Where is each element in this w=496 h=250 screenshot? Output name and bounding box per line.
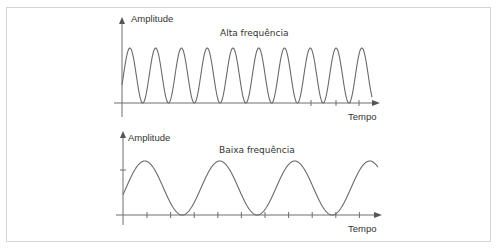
low-y-axis-arrow-icon xyxy=(120,131,126,138)
low-x-axis-label: Tempo xyxy=(348,223,377,234)
high-frequency-panel: Amplitude Alta frequência Tempo xyxy=(114,13,380,122)
low-panel-title: Baixa frequência xyxy=(219,145,295,155)
high-frequency-wave xyxy=(122,48,372,103)
frequency-comparison-diagram: Amplitude Alta frequência Tempo Amplitud… xyxy=(0,0,496,250)
high-x-axis-arrow-icon xyxy=(372,100,380,106)
low-x-axis-arrow-icon xyxy=(374,212,382,218)
low-frequency-panel: Amplitude Baixa frequência Tempo xyxy=(116,131,382,234)
high-panel-title: Alta frequência xyxy=(220,28,288,38)
low-y-axis-label: Amplitude xyxy=(128,132,170,143)
low-frequency-wave xyxy=(123,161,378,215)
high-y-axis-arrow-icon xyxy=(119,17,125,24)
high-x-axis-label: Tempo xyxy=(348,111,377,122)
high-y-axis-label: Amplitude xyxy=(131,13,173,24)
